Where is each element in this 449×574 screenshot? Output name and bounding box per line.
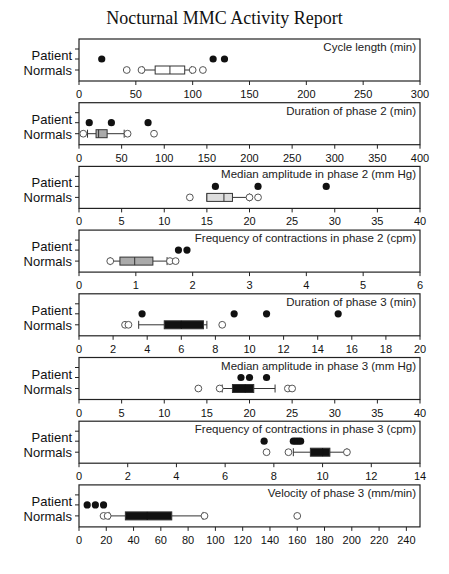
x-tick-label: 30 xyxy=(329,215,341,227)
patient-point xyxy=(246,374,253,381)
normals-label: Normals xyxy=(24,127,73,142)
x-tick-label: 50 xyxy=(130,88,142,100)
panel-2: PatientNormalsMedian amplitude in phase … xyxy=(24,166,427,227)
panel-0: PatientNormalsCycle length (min)05010015… xyxy=(24,39,430,100)
x-tick-label: 0 xyxy=(76,279,82,291)
x-tick-label: 0 xyxy=(76,407,82,419)
panel-title: Median amplitude in phase 3 (mm Hg) xyxy=(221,360,416,372)
x-tick-label: 4 xyxy=(303,279,309,291)
x-tick-label: 50 xyxy=(116,152,128,164)
patient-point xyxy=(261,438,268,445)
x-tick-label: 250 xyxy=(283,152,301,164)
x-tick-label: 350 xyxy=(368,152,386,164)
patient-point xyxy=(86,119,93,126)
patient-point xyxy=(335,310,342,317)
normals-label: Normals xyxy=(24,254,73,269)
normals-outlier xyxy=(289,385,296,392)
patient-label: Patient xyxy=(32,430,73,445)
patient-label: Patient xyxy=(32,112,73,127)
x-tick-label: 20 xyxy=(243,215,255,227)
x-tick-label: 16 xyxy=(346,343,358,355)
normals-box xyxy=(232,385,253,393)
x-tick-label: 35 xyxy=(371,215,383,227)
normals-box xyxy=(96,130,107,138)
normals-outlier xyxy=(186,194,193,201)
x-tick-label: 10 xyxy=(158,215,170,227)
panel-6: PatientNormalsFrequency of contractions … xyxy=(24,421,427,482)
normals-outlier xyxy=(263,449,270,456)
patient-label: Patient xyxy=(32,494,73,509)
x-tick-label: 6 xyxy=(222,470,228,482)
normals-outlier xyxy=(138,67,145,74)
x-tick-label: 250 xyxy=(354,88,372,100)
x-tick-label: 15 xyxy=(201,407,213,419)
x-tick-label: 300 xyxy=(411,88,429,100)
patient-label: Patient xyxy=(32,303,73,318)
x-tick-label: 0 xyxy=(76,88,82,100)
x-tick-label: 160 xyxy=(288,534,306,546)
x-tick-label: 100 xyxy=(155,152,173,164)
patient-point xyxy=(144,119,151,126)
x-tick-label: 0 xyxy=(76,534,82,546)
x-tick-label: 400 xyxy=(411,152,429,164)
x-tick-label: 6 xyxy=(417,279,423,291)
panel-1: PatientNormalsDuration of phase 2 (min)0… xyxy=(24,103,430,164)
normals-outlier xyxy=(285,449,292,456)
normals-label: Normals xyxy=(24,382,73,397)
normals-outlier xyxy=(344,449,351,456)
normals-outlier xyxy=(151,130,158,137)
patient-point xyxy=(237,374,244,381)
normals-label: Normals xyxy=(24,318,73,333)
panel-title: Velocity of phase 3 (mm/min) xyxy=(268,487,416,499)
panel-4: PatientNormalsDuration of phase 3 (min)0… xyxy=(24,294,427,355)
normals-box xyxy=(310,448,329,456)
x-tick-label: 200 xyxy=(297,88,315,100)
x-tick-label: 25 xyxy=(286,215,298,227)
normals-outlier xyxy=(172,258,179,265)
normals-label: Normals xyxy=(24,445,73,460)
x-tick-label: 40 xyxy=(414,407,426,419)
normals-outlier xyxy=(123,67,130,74)
x-tick-label: 18 xyxy=(380,343,392,355)
x-tick-label: 5 xyxy=(360,279,366,291)
x-tick-label: 10 xyxy=(243,343,255,355)
normals-box xyxy=(207,193,233,201)
x-tick-label: 0 xyxy=(76,343,82,355)
normals-outlier xyxy=(294,513,301,520)
patient-label: Patient xyxy=(32,175,73,190)
x-tick-label: 40 xyxy=(414,215,426,227)
panel-title: Cycle length (min) xyxy=(323,41,416,53)
patient-point xyxy=(98,55,105,62)
normals-outlier xyxy=(80,130,87,137)
normals-box xyxy=(164,321,203,329)
patient-point xyxy=(263,374,270,381)
x-tick-label: 25 xyxy=(286,407,298,419)
patient-point xyxy=(100,501,107,508)
x-tick-label: 200 xyxy=(343,534,361,546)
patient-point xyxy=(175,247,182,254)
patient-point xyxy=(92,501,99,508)
x-tick-label: 10 xyxy=(316,470,328,482)
normals-outlier xyxy=(107,258,114,265)
x-tick-label: 100 xyxy=(183,88,201,100)
normals-outlier xyxy=(104,513,111,520)
normals-outlier xyxy=(201,513,208,520)
normals-box xyxy=(120,257,153,265)
patient-point xyxy=(183,247,190,254)
x-tick-label: 5 xyxy=(119,215,125,227)
panel-title: Frequency of contractions in phase 3 (cp… xyxy=(195,423,416,435)
normals-label: Normals xyxy=(24,190,73,205)
x-tick-label: 14 xyxy=(312,343,324,355)
x-tick-label: 20 xyxy=(100,534,112,546)
patient-point xyxy=(263,310,270,317)
x-tick-label: 10 xyxy=(158,407,170,419)
x-tick-label: 240 xyxy=(397,534,415,546)
patient-label: Patient xyxy=(32,48,73,63)
panel-title: Duration of phase 2 (min) xyxy=(286,105,416,117)
x-tick-label: 4 xyxy=(173,470,179,482)
box-plot-panels: PatientNormalsCycle length (min)05010015… xyxy=(0,0,449,574)
x-tick-label: 1 xyxy=(133,279,139,291)
patient-point xyxy=(210,55,217,62)
x-tick-label: 150 xyxy=(198,152,216,164)
x-tick-label: 3 xyxy=(246,279,252,291)
